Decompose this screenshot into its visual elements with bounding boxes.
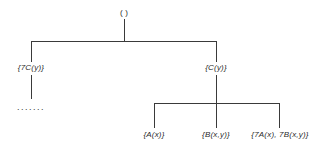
root-stem [124, 19, 125, 41]
right-branch-bar [154, 103, 280, 104]
node-a-x: {A(x)} [143, 130, 164, 140]
node-not-c-y: {7C(y)} [18, 63, 44, 73]
node-b-xy: {B(x,y)} [202, 130, 230, 140]
node-not-a-not-b: {7A(x), 7B(x,y)} [251, 130, 308, 140]
child-line-a [154, 103, 155, 128]
root-node: ( ) [120, 8, 128, 18]
left-child-line [31, 75, 32, 99]
right-branch-line [216, 41, 217, 62]
ellipsis-continuation: ....... [17, 104, 45, 110]
root-branch-bar [31, 41, 217, 42]
right-child-stem [216, 75, 217, 103]
child-line-b [216, 103, 217, 128]
child-line-c [279, 103, 280, 128]
left-branch-line [31, 41, 32, 62]
node-c-y: {C(y)} [205, 63, 227, 73]
